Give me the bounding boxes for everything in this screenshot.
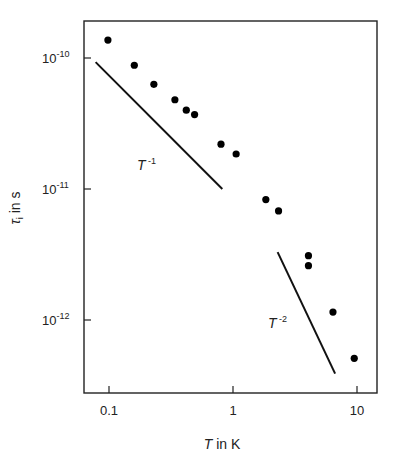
data-point xyxy=(171,96,178,103)
reference-lines: T -1T -2 xyxy=(96,62,335,373)
data-point xyxy=(150,81,157,88)
x-tick-label: 1 xyxy=(229,403,236,418)
y-tick-label: 10-12 xyxy=(42,311,69,328)
data-point xyxy=(104,36,111,43)
y-tick-label: 10-10 xyxy=(42,49,69,66)
y-axis-label: τi in s xyxy=(7,192,25,225)
x-axis-label: T in K xyxy=(204,436,241,452)
svg-text:τi in s: τi in s xyxy=(7,192,25,225)
data-point xyxy=(262,196,269,203)
data-point xyxy=(305,262,312,269)
data-points xyxy=(104,36,358,361)
axis-ticks: 0.111010-1010-1110-12 xyxy=(42,49,364,418)
reference-line-T^-1 xyxy=(96,62,223,189)
x-tick-label: 0.1 xyxy=(100,403,118,418)
data-point xyxy=(305,252,312,259)
data-point xyxy=(131,62,138,69)
reference-line-label: T -2 xyxy=(268,314,287,331)
y-tick-label: 10-11 xyxy=(42,180,69,197)
data-point xyxy=(217,141,224,148)
data-point xyxy=(191,111,198,118)
data-point xyxy=(351,355,358,362)
plot-frame xyxy=(84,21,377,393)
x-tick-label: 10 xyxy=(350,403,364,418)
reference-line-T^-2 xyxy=(278,252,335,373)
reference-line-label: T -1 xyxy=(137,156,156,173)
data-point xyxy=(329,308,336,315)
data-point xyxy=(233,150,240,157)
data-point xyxy=(275,207,282,214)
chart: 0.111010-1010-1110-12 T -1T -2 T in K τi… xyxy=(0,0,399,467)
data-point xyxy=(183,107,190,114)
